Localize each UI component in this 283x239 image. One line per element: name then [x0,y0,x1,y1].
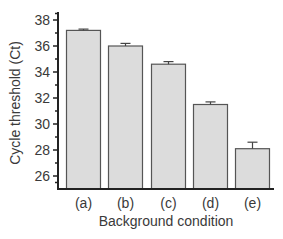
bar [109,46,143,189]
y-tick-label: 28 [34,142,50,158]
bar [236,149,270,189]
y-tick-label: 34 [34,64,50,80]
y-axis-title: Cycle threshold (Ct) [7,41,23,165]
x-tick-label: (b) [117,195,134,211]
y-tick-label: 36 [34,38,50,54]
bar [194,105,228,190]
y-tick-label: 32 [34,90,50,106]
bars-group [67,30,270,189]
x-tick-label: (c) [160,195,176,211]
x-tick-label: (d) [202,195,219,211]
x-axis-title: Background condition [99,213,234,229]
bar [152,64,186,189]
bar [67,30,101,189]
y-tick-label: 38 [34,12,50,28]
error-bar [248,142,258,149]
x-tick-label: (e) [244,195,261,211]
x-tick-label: (a) [75,195,92,211]
y-axis: 26283032343638 [34,12,58,190]
x-axis: (a)(b)(c)(d)(e) [57,189,274,211]
bar-chart: 26283032343638 (a)(b)(c)(d)(e) Cycle thr… [0,0,283,239]
y-tick-label: 26 [34,168,50,184]
y-tick-label: 30 [34,116,50,132]
